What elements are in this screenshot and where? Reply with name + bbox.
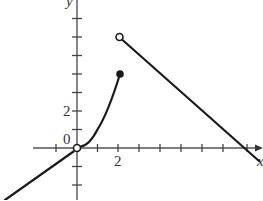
x-tick-label-2: 2 — [114, 153, 122, 169]
x-axis-arrow-icon — [255, 145, 263, 152]
y-axis-label: y — [64, 0, 73, 9]
closed-point-2-4 — [116, 70, 124, 78]
linear-segment-right — [122, 40, 259, 162]
curves — [5, 40, 259, 201]
axes — [33, 0, 258, 200]
function-graph: 0 2 2 x y — [0, 0, 263, 200]
y-tick-label-2: 2 — [63, 103, 71, 119]
linear-segment-left — [5, 152, 74, 201]
open-point-origin — [74, 145, 81, 152]
y-tick-label-0: 0 — [63, 131, 71, 147]
open-point-2-6 — [116, 34, 123, 41]
parabola-segment — [81, 74, 121, 147]
